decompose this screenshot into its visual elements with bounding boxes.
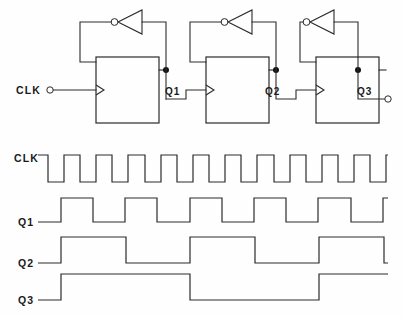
inverter-2[interactable] (221, 10, 252, 34)
q1-label: Q1 (165, 86, 180, 97)
feedback-3-in-wire (334, 22, 358, 70)
clk-input-terminal-icon[interactable] (47, 87, 53, 93)
timing-diagram-group: CLK Q1 Q2 Q3 (14, 152, 388, 306)
flipflop-stage-2[interactable] (206, 57, 269, 123)
timing-row-label-clk: CLK (14, 152, 39, 164)
inverter-3-triangle-icon (310, 10, 334, 34)
flipflop-3-clock-edge-icon (316, 85, 324, 95)
feedback-2-in-wire (252, 22, 276, 70)
q3-output-terminal-icon[interactable] (385, 96, 391, 102)
flipflop-1-body[interactable] (96, 57, 159, 123)
feedback-3-out-wire (300, 22, 316, 62)
waveform-q1 (38, 198, 388, 222)
flipflop-2-body[interactable] (206, 57, 269, 123)
waveform-q3 (38, 274, 388, 300)
flipflop-1-clock-edge-icon (96, 85, 104, 95)
inverter-2-bubble-icon (221, 19, 228, 26)
q3-label: Q3 (357, 86, 372, 97)
flipflop-2-clock-edge-icon (206, 85, 214, 95)
timing-row-label-q3: Q3 (18, 294, 34, 306)
q2-to-ff3-clock-wire (276, 70, 316, 99)
inverter-1-triangle-icon (118, 10, 142, 34)
inverter-1[interactable] (111, 10, 142, 34)
figure-root: CLK Q1 (0, 0, 404, 317)
clk-input-label: CLK (16, 84, 41, 96)
timing-row-label-q2: Q2 (18, 257, 34, 269)
q2-label: Q2 (265, 86, 280, 97)
schematic-and-timing-svg: CLK Q1 (0, 0, 404, 317)
waveform-q2 (38, 237, 388, 263)
inverter-3[interactable] (303, 10, 334, 34)
inverter-3-bubble-icon (303, 19, 310, 26)
waveform-clk (38, 155, 388, 182)
inverter-1-bubble-icon (111, 19, 118, 26)
schematic-group: CLK Q1 (16, 10, 391, 123)
flipflop-stage-1[interactable] (96, 57, 159, 123)
feedback-1-in-wire (142, 22, 166, 70)
timing-row-label-q1: Q1 (18, 216, 34, 228)
feedback-1-out-wire (80, 22, 111, 62)
feedback-2-out-wire (190, 22, 221, 62)
inverter-2-triangle-icon (228, 10, 252, 34)
